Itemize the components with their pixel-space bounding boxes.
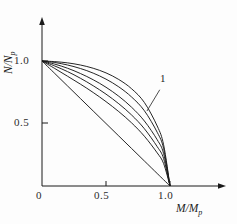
curve-curve-6: [42, 61, 170, 186]
curve-annotation-label: 1: [160, 72, 166, 84]
x-axis-title-subscript: p: [198, 208, 202, 217]
x-axis-title: M/Mp: [176, 202, 202, 217]
y-axis-title-main: N/N: [2, 55, 14, 74]
y-axis: [39, 17, 45, 186]
annotation-leader-line: [147, 90, 160, 111]
y-axis-title-subscript: p: [8, 51, 17, 55]
y-tick-label-0: 0.5: [14, 116, 29, 128]
x-axis-title-main: M/M: [176, 202, 198, 214]
x-tick-label-2: 1.0: [158, 189, 173, 201]
y-axis-title: N/Np: [2, 51, 17, 74]
y-tick-marks: [42, 61, 48, 123]
x-tick-label-1: 0.5: [94, 189, 109, 201]
x-axis: [42, 183, 226, 189]
x-tick-label-0: 0: [36, 189, 42, 201]
data-curves: [42, 61, 170, 186]
x-tick-marks: [106, 181, 170, 186]
chart-figure: 1.0 0.5 0 0.5 1.0 N/Np M/Mp 1: [0, 0, 237, 224]
